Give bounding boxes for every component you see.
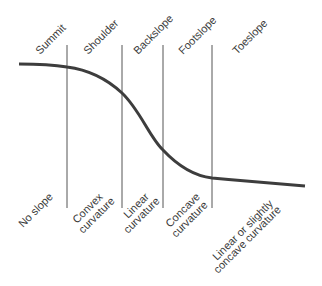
desc-toeslope-line2: concave curvature xyxy=(211,203,283,275)
label-summit: Summit xyxy=(33,22,68,57)
hillslope-diagram: Summit Shoulder Backslope Footslope Toes… xyxy=(0,0,322,286)
label-shoulder: Shoulder xyxy=(81,17,121,57)
desc-summit: No slope xyxy=(16,190,55,229)
slope-profile-curve xyxy=(19,64,305,186)
label-toeslope: Toeslope xyxy=(230,17,270,57)
label-backslope: Backslope xyxy=(131,12,175,56)
desc-toeslope-line1: Linear or slightly xyxy=(210,197,275,262)
